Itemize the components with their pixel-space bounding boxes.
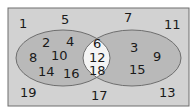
set-a-number: 4 bbox=[66, 34, 74, 49]
set-a-number: 16 bbox=[63, 66, 80, 81]
outside-number: 19 bbox=[20, 85, 37, 100]
intersection-number: 18 bbox=[89, 63, 106, 78]
set-b-number: 15 bbox=[129, 62, 146, 77]
outside-number: 13 bbox=[159, 85, 176, 100]
set-b-number: 3 bbox=[130, 40, 138, 55]
outside-number: 11 bbox=[164, 17, 181, 32]
outside-number: 17 bbox=[91, 88, 108, 103]
set-a-number: 10 bbox=[51, 48, 68, 63]
outside-number: 5 bbox=[61, 12, 69, 27]
outside-number: 1 bbox=[19, 16, 27, 31]
set-b-number: 9 bbox=[153, 49, 161, 64]
venn-diagram: 1 5 7 11 19 17 13 2 4 8 10 14 16 6 12 18… bbox=[0, 0, 194, 109]
outside-number: 7 bbox=[124, 10, 132, 25]
set-a-number: 2 bbox=[42, 35, 50, 50]
intersection-number: 6 bbox=[93, 36, 101, 51]
set-a-number: 14 bbox=[38, 64, 55, 79]
set-a-number: 8 bbox=[29, 50, 37, 65]
